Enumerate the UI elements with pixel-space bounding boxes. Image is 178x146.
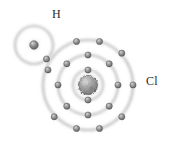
electron bbox=[73, 38, 79, 44]
electron bbox=[96, 38, 102, 44]
electron bbox=[55, 82, 61, 88]
electron bbox=[85, 112, 91, 118]
bohr-model-canvas bbox=[0, 0, 178, 146]
electron bbox=[119, 50, 125, 56]
electron bbox=[130, 82, 136, 88]
electron bbox=[64, 61, 70, 67]
hydrogen-atom-label: H bbox=[52, 8, 61, 20]
hydrogen-nucleus bbox=[29, 40, 39, 50]
electron bbox=[106, 61, 112, 67]
bohr-model-diagram: H Cl bbox=[0, 0, 178, 146]
electron bbox=[43, 56, 49, 62]
chlorine-atom-label: Cl bbox=[146, 75, 158, 87]
electron bbox=[85, 97, 91, 103]
electron bbox=[96, 125, 102, 131]
electron bbox=[73, 125, 79, 131]
electron bbox=[45, 67, 51, 73]
electron bbox=[85, 52, 91, 58]
electron bbox=[106, 103, 112, 109]
electron bbox=[115, 82, 121, 88]
electron bbox=[85, 67, 91, 73]
electron bbox=[64, 103, 70, 109]
electron bbox=[51, 114, 57, 120]
electron bbox=[119, 114, 125, 120]
chlorine-nucleus bbox=[77, 74, 98, 95]
